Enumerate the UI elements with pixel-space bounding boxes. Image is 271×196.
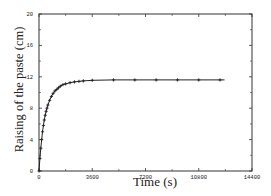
y-tick-label: 0 [30,168,33,175]
x-tick-label: 14400 [244,174,261,181]
x-axis-label: Time (s) [100,174,210,190]
y-tick-label: 4 [30,137,34,144]
data-markers [37,78,221,172]
axis-ticks [39,14,252,171]
axis-tick-labels: 0360072001080014400048121620 [26,11,260,181]
plot-frame [39,14,252,171]
x-tick-label: 3600 [86,174,99,181]
y-tick-label: 8 [30,105,33,112]
y-tick-label: 12 [26,74,33,81]
y-tick-label: 16 [26,42,33,49]
data-series-line [39,80,225,171]
line-chart: 0360072001080014400048121620 [0,0,271,196]
y-tick-label: 20 [26,11,33,18]
x-tick-label: 0 [37,174,40,181]
y-axis-label: Raising of the paste (cm) [12,15,27,165]
